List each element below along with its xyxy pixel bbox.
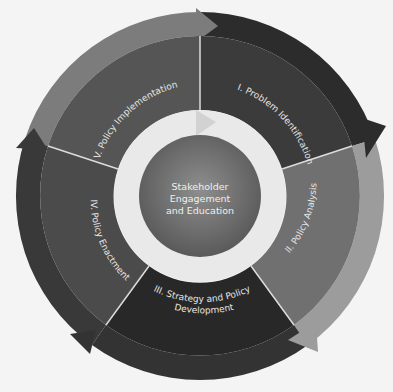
center-label-line-3: and Education (166, 205, 234, 216)
center-label-line-1: Stakeholder (172, 181, 229, 192)
arrow-head-icon (70, 330, 96, 354)
center-label-line-2: Engagement (170, 193, 231, 204)
policy-cycle-diagram: Stakeholder Engagement and Education V. … (0, 0, 393, 392)
